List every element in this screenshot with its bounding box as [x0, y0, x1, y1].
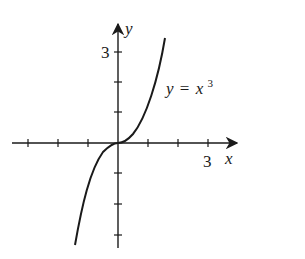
cubic-graph: y x 3 3 y = x 3 [0, 0, 305, 259]
function-label: y = x 3 [164, 77, 213, 98]
x-axis-label: x [224, 149, 233, 168]
x-tick-label-3: 3 [203, 152, 212, 171]
y-tick-label-3: 3 [101, 43, 110, 62]
y-axis-label: y [123, 19, 133, 38]
